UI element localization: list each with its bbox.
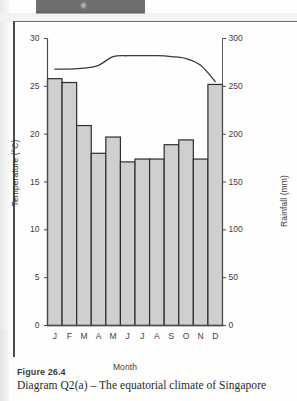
- scanned-page: ⎈ Temperature (°C) Rainfall (mm) Month F…: [0, 0, 297, 401]
- figure-caption: Diagram Q2(a) – The equatorial climate o…: [17, 379, 266, 391]
- x-axis-month-label: A: [92, 331, 106, 341]
- y-axis-left-tick-label: 20: [18, 129, 40, 139]
- y-axis-left-title: Temperature (°C): [10, 125, 20, 221]
- y-axis-right-tick-label: 150: [229, 177, 255, 187]
- x-axis-month-label: J: [121, 331, 135, 341]
- y-axis-left-tick-label: 30: [18, 33, 40, 43]
- y-axis-left-tick-label: 10: [18, 224, 40, 234]
- y-axis-right-tick-label: 250: [229, 81, 255, 91]
- x-axis-month-label: D: [208, 331, 222, 341]
- y-axis-left-tick-label: 15: [18, 177, 40, 187]
- x-axis-month-label: A: [150, 331, 164, 341]
- figure-frame: [13, 21, 297, 357]
- pen-nib-icon: ⎈: [79, 0, 94, 10]
- x-axis-month-label: N: [194, 331, 208, 341]
- x-axis-month-label: O: [179, 331, 193, 341]
- y-axis-right-tick-label: 300: [229, 33, 255, 43]
- y-axis-right-tick-label: 0: [229, 320, 255, 330]
- y-axis-left-tick-label: 5: [18, 272, 40, 282]
- x-axis-month-label: J: [135, 331, 149, 341]
- figure-number: Figure 26.4: [17, 367, 66, 377]
- y-axis-left-tick-label: 0: [18, 320, 40, 330]
- y-axis-left-tick-label: 25: [18, 81, 40, 91]
- x-axis-month-label: F: [62, 331, 76, 341]
- x-axis-month-label: J: [48, 331, 62, 341]
- y-axis-right-title: Rainfall (mm): [279, 153, 289, 249]
- y-axis-right-tick-label: 50: [229, 272, 255, 282]
- y-axis-right-tick-label: 100: [229, 224, 255, 234]
- x-axis-month-label: S: [164, 331, 178, 341]
- x-axis-month-label: M: [77, 331, 91, 341]
- top-banner-shadow: [36, 11, 145, 14]
- y-axis-right-tick-label: 200: [229, 129, 255, 139]
- x-axis-month-label: M: [106, 331, 120, 341]
